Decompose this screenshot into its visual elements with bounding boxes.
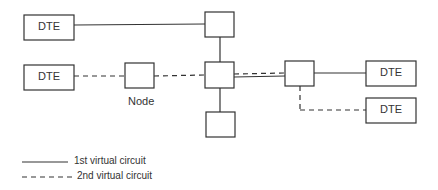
dashed-link xyxy=(154,75,205,76)
dte-label-2: DTE xyxy=(24,70,74,82)
legend-dashed-label: 2nd virtual circuit xyxy=(77,170,152,181)
node-top xyxy=(205,12,234,37)
dte-label-1: DTE xyxy=(24,20,74,32)
node-label: Node xyxy=(128,95,154,107)
node-center xyxy=(205,62,234,88)
dte-label-3: DTE xyxy=(366,66,416,78)
solid-link xyxy=(234,76,285,77)
node-left xyxy=(125,63,154,88)
solid-link xyxy=(74,24,205,25)
node-right xyxy=(285,61,314,86)
legend-solid-label: 1st virtual circuit xyxy=(74,155,146,166)
dte-label-4: DTE xyxy=(366,103,416,115)
node-bottom xyxy=(206,112,235,137)
dashed-link xyxy=(234,73,285,74)
